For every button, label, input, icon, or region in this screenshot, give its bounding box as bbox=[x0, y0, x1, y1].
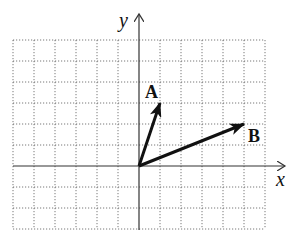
vector-a-label: A bbox=[145, 82, 158, 102]
x-axis-label: x bbox=[275, 168, 285, 190]
vector-b-label: B bbox=[248, 126, 260, 146]
vector-a-arrow bbox=[139, 103, 160, 166]
y-axis-label: y bbox=[117, 9, 128, 32]
coordinate-diagram: y x A B bbox=[0, 0, 289, 240]
